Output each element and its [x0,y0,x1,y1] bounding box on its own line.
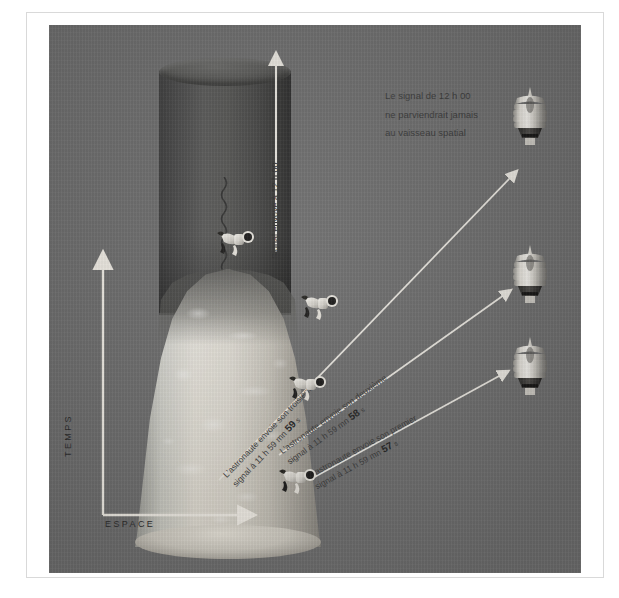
illustration-plate: TEMPS ESPACE Signal [49,25,581,573]
arrow-icon-signal-1 [309,375,501,480]
spacecraft-icon-middle [501,243,559,305]
trapped-signal-label: Signal envoyé à 12 h 00 [270,162,280,259]
astronaut-icon-3 [287,370,333,404]
astronaut-icon-4 [277,463,323,497]
astronaut-icon-1 [215,225,261,259]
spacecraft-icon-bottom [501,335,559,397]
arrow-icon-signal-3 [219,177,511,480]
astronaut-icon-2 [299,289,345,323]
spacecraft-icon-top [501,85,559,147]
page-background: TEMPS ESPACE Signal [0,0,619,598]
